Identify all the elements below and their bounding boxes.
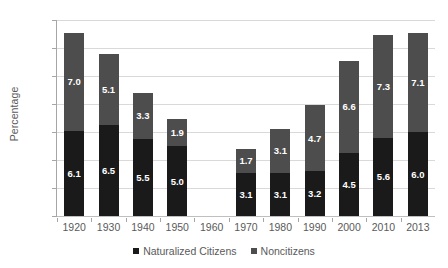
bar-segment-noncitizens[interactable]: 4.7 xyxy=(305,105,325,171)
bar-value-label: 7.3 xyxy=(373,82,393,92)
bar-value-label: 3.3 xyxy=(133,111,153,121)
bar-1930[interactable]: 6.55.1 xyxy=(99,54,119,216)
bar-value-label: 7.0 xyxy=(64,77,84,87)
bar-value-label: 6.0 xyxy=(408,170,428,180)
legend-label: Noncitizens xyxy=(261,245,315,257)
gridline xyxy=(57,20,435,21)
bar-segment-noncitizens[interactable]: 3.3 xyxy=(133,93,153,139)
x-tick-label: 1980 xyxy=(263,221,297,233)
y-axis-title: Percentage xyxy=(8,69,20,159)
plot-area: 6.17.06.55.15.53.35.01.93.11.73.13.13.24… xyxy=(57,20,435,216)
bar-value-label: 5.6 xyxy=(373,172,393,182)
bar-value-label: 5.5 xyxy=(133,173,153,183)
bar-value-label: 3.1 xyxy=(236,190,256,200)
x-tick-label: 2010 xyxy=(366,221,400,233)
y-tick-mark xyxy=(52,188,57,189)
legend-item-noncitizens[interactable]: Noncitizens xyxy=(251,245,315,257)
bar-value-label: 3.1 xyxy=(270,190,290,200)
x-tick-label: 1930 xyxy=(91,221,125,233)
bar-value-label: 1.9 xyxy=(167,128,187,138)
bar-value-label: 5.0 xyxy=(167,177,187,187)
legend-item-naturalized[interactable]: Naturalized Citizens xyxy=(133,245,236,257)
x-tick-label: 2000 xyxy=(332,221,366,233)
bar-value-label: 6.5 xyxy=(99,166,119,176)
bar-1940[interactable]: 5.53.3 xyxy=(133,93,153,216)
bar-1990[interactable]: 3.24.7 xyxy=(305,105,325,216)
bar-segment-naturalized[interactable]: 5.5 xyxy=(133,139,153,216)
bar-segment-naturalized[interactable]: 6.1 xyxy=(64,131,84,216)
x-tick-label: 2013 xyxy=(401,221,435,233)
x-tick-label: 1970 xyxy=(229,221,263,233)
x-tick-label: 1920 xyxy=(57,221,91,233)
legend-label: Naturalized Citizens xyxy=(143,245,236,257)
bar-segment-naturalized[interactable]: 3.2 xyxy=(305,171,325,216)
bar-segment-naturalized[interactable]: 3.1 xyxy=(270,173,290,216)
bar-1980[interactable]: 3.13.1 xyxy=(270,129,290,216)
legend: Naturalized CitizensNoncitizens xyxy=(0,245,448,257)
bar-segment-naturalized[interactable]: 6.0 xyxy=(408,132,428,216)
y-tick-mark xyxy=(52,132,57,133)
bar-value-label: 6.1 xyxy=(64,169,84,179)
bar-value-label: 6.6 xyxy=(339,102,359,112)
x-tick-label: 1990 xyxy=(298,221,332,233)
bar-segment-noncitizens[interactable]: 7.3 xyxy=(373,35,393,137)
bar-value-label: 3.2 xyxy=(305,189,325,199)
bar-value-label: 4.7 xyxy=(305,134,325,144)
bar-segment-noncitizens[interactable]: 1.9 xyxy=(167,119,187,146)
bar-segment-naturalized[interactable]: 5.0 xyxy=(167,146,187,216)
bar-segment-naturalized[interactable]: 5.6 xyxy=(373,138,393,216)
bar-segment-noncitizens[interactable]: 6.6 xyxy=(339,61,359,153)
bar-segment-noncitizens[interactable]: 7.0 xyxy=(64,33,84,131)
bar-2010[interactable]: 5.67.3 xyxy=(373,35,393,216)
bar-value-label: 5.1 xyxy=(99,85,119,95)
bar-segment-noncitizens[interactable]: 7.1 xyxy=(408,33,428,132)
bar-1950[interactable]: 5.01.9 xyxy=(167,119,187,216)
x-axis-labels: 1920193019401950196019701980199020002010… xyxy=(57,218,435,240)
bar-segment-noncitizens[interactable]: 1.7 xyxy=(236,149,256,173)
bar-segment-noncitizens[interactable]: 5.1 xyxy=(99,54,119,125)
x-tick-label: 1950 xyxy=(160,221,194,233)
y-tick-mark xyxy=(52,216,57,217)
bar-segment-naturalized[interactable]: 3.1 xyxy=(236,173,256,216)
x-tick-label: 1960 xyxy=(194,221,228,233)
bar-chart: Percentage 6.17.06.55.15.53.35.01.93.11.… xyxy=(0,0,448,268)
bar-value-label: 1.7 xyxy=(236,156,256,166)
legend-swatch-icon xyxy=(133,248,139,254)
bar-1970[interactable]: 3.11.7 xyxy=(236,149,256,216)
y-tick-mark xyxy=(52,20,57,21)
y-tick-mark xyxy=(52,76,57,77)
legend-swatch-icon xyxy=(251,248,257,254)
bar-segment-noncitizens[interactable]: 3.1 xyxy=(270,129,290,172)
y-tick-mark xyxy=(52,160,57,161)
bar-value-label: 3.1 xyxy=(270,146,290,156)
bar-2000[interactable]: 4.56.6 xyxy=(339,61,359,216)
gridline xyxy=(57,216,435,217)
bar-segment-naturalized[interactable]: 4.5 xyxy=(339,153,359,216)
y-tick-mark xyxy=(52,48,57,49)
bar-2013[interactable]: 6.07.1 xyxy=(408,33,428,216)
bar-segment-naturalized[interactable]: 6.5 xyxy=(99,125,119,216)
x-tick-label: 1940 xyxy=(126,221,160,233)
bar-1920[interactable]: 6.17.0 xyxy=(64,33,84,216)
y-tick-mark xyxy=(52,104,57,105)
bar-value-label: 7.1 xyxy=(408,78,428,88)
bar-value-label: 4.5 xyxy=(339,180,359,190)
